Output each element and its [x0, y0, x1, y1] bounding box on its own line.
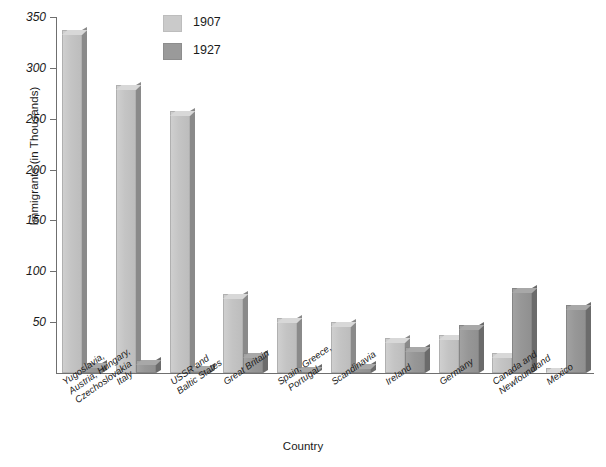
bar-group	[331, 17, 385, 373]
bar-group	[170, 17, 224, 373]
bar-side	[586, 302, 591, 373]
bar-group	[546, 17, 600, 373]
bar-1907	[170, 111, 190, 373]
bar-side	[82, 27, 87, 373]
bar-face	[62, 30, 82, 373]
legend-label-1927: 1927	[193, 41, 221, 59]
bar-top	[170, 111, 195, 116]
bar-group	[492, 17, 546, 373]
bar-side	[479, 322, 484, 373]
x-axis-title: Country	[0, 440, 606, 452]
y-tick-label-300: 300	[10, 61, 46, 75]
plot-area: 50100150200250300350	[56, 17, 594, 374]
bar-group	[62, 17, 116, 373]
bar-1907	[116, 85, 136, 373]
bar-group	[277, 17, 331, 373]
y-tick-label-50: 50	[10, 315, 46, 329]
y-tick-label-150: 150	[10, 213, 46, 227]
bar-group	[385, 17, 439, 373]
legend-swatch-1907	[163, 15, 182, 32]
bar-1907	[223, 294, 243, 373]
legend-label-1907: 1907	[193, 13, 221, 31]
y-tick-label-250: 250	[10, 112, 46, 126]
bar-side	[136, 82, 141, 373]
bar-face	[223, 294, 243, 373]
bar-group	[439, 17, 493, 373]
bar-1907	[62, 30, 82, 373]
bar-group	[223, 17, 277, 373]
bar-chart: Immigrants (in Thousands) 50100150200250…	[0, 0, 606, 467]
y-tick-label-100: 100	[10, 264, 46, 278]
bar-group	[116, 17, 170, 373]
bar-face	[116, 85, 136, 373]
y-tick-label-200: 200	[10, 163, 46, 177]
bar-face	[170, 111, 190, 373]
y-tick-label-350: 350	[10, 10, 46, 24]
bar-groups	[56, 17, 594, 374]
bar-1927	[136, 360, 156, 373]
bar-side	[190, 107, 195, 373]
legend-swatch-1927	[163, 43, 182, 60]
